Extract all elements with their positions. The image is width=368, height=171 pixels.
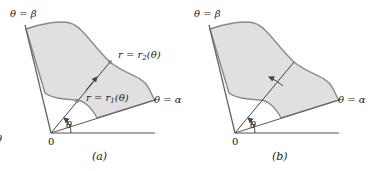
caption-a: (a) bbox=[92, 150, 107, 163]
origin-label-b: 0 bbox=[232, 136, 238, 147]
outer-point-a bbox=[108, 60, 112, 64]
beta-label-a: θ = β bbox=[10, 8, 37, 19]
polar-region-figure: θ θ = β θ = α r = r2(θ) r = r1(θ) θ 0 (a… bbox=[0, 0, 368, 171]
panel-a: θ = β θ = α r = r2(θ) r = r1(θ) θ 0 (a) bbox=[10, 8, 182, 163]
beta-label-b: θ = β bbox=[194, 8, 221, 19]
angle-label-b: θ bbox=[250, 119, 256, 130]
angle-label-a: θ bbox=[66, 119, 72, 130]
alpha-label-b: θ = α bbox=[338, 94, 366, 105]
polar-region-b bbox=[210, 22, 339, 118]
inner-point-a bbox=[75, 99, 79, 103]
outer-curve-label-a: r = r2(θ) bbox=[118, 49, 161, 62]
origin-label-a: 0 bbox=[48, 136, 54, 147]
alpha-label-a: θ = α bbox=[154, 94, 182, 105]
panel-b: θ = β θ = α θ 0 (b) bbox=[194, 8, 366, 163]
edge-fragment-label: θ bbox=[0, 133, 2, 144]
caption-b: (b) bbox=[272, 150, 288, 163]
polar-region-a bbox=[26, 22, 155, 118]
